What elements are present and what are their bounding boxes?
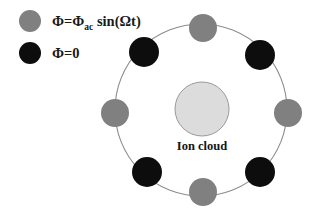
figure-background — [0, 0, 313, 219]
figure-root: Ion cloud Φ=Φac sin(Ωt)Φ=0 — [0, 0, 313, 219]
electrode-lower-left — [132, 157, 162, 187]
legend-marker-gray-circle — [19, 10, 41, 32]
ion-trap-diagram: Ion cloud Φ=Φac sin(Ωt)Φ=0 — [0, 0, 313, 219]
legend-label-1: Φ=0 — [52, 45, 80, 61]
electrode-top — [189, 14, 217, 42]
legend-marker-black-circle — [19, 42, 41, 64]
electrode-bottom — [189, 178, 217, 206]
electrode-left — [101, 99, 129, 127]
ion-cloud-label: Ion cloud — [177, 139, 227, 153]
electrode-right — [274, 99, 302, 127]
electrode-upper-left — [129, 37, 159, 67]
ion-cloud-circle — [175, 82, 229, 136]
electrode-lower-right — [245, 157, 275, 187]
electrode-upper-right — [245, 40, 275, 70]
